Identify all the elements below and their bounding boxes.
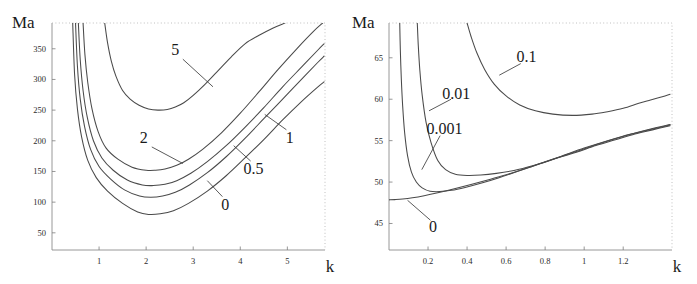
curve-label-0-5: 0.5 (243, 160, 263, 177)
curve-label-0-01: 0.01 (442, 85, 470, 102)
y-tick-label: 55 (375, 136, 384, 146)
y-tick-label: 350 (33, 44, 46, 54)
x-tick-label: 1 (97, 256, 101, 266)
y-axis-title: Ma (352, 13, 375, 32)
curve-label-0: 0 (221, 196, 229, 213)
curve-0 (73, 23, 324, 215)
y-tick-label: 45 (375, 218, 384, 228)
x-tick-label: 1.2 (618, 256, 629, 266)
curve-label-5: 5 (171, 41, 179, 58)
y-tick-label: 50 (375, 177, 384, 187)
curve-0-1 (467, 23, 670, 115)
x-tick-label: 0.4 (462, 256, 473, 266)
y-tick-label: 65 (375, 53, 384, 63)
curve-leader-line (234, 146, 251, 161)
curve-leader-line (183, 59, 213, 87)
x-axis-title: k (673, 257, 682, 276)
curve-leader-line (408, 200, 431, 220)
curve-label-0-001: 0.001 (427, 120, 463, 137)
plot-left-svg: 5010015020025030035012345Mak5210.50 (0, 0, 350, 284)
x-tick-label: 3 (191, 256, 195, 266)
x-tick-label: 2 (144, 256, 148, 266)
x-tick-label: 0.6 (501, 256, 512, 266)
plot-panel-right: 45505560650.20.40.60.811.2Mak0.10.010.00… (350, 0, 697, 284)
plot-right-svg: 45505560650.20.40.60.811.2Mak0.10.010.00… (350, 0, 697, 284)
curve-5 (105, 23, 285, 110)
curve-2 (83, 23, 323, 171)
curve-label-1: 1 (286, 129, 294, 146)
curve-label-2: 2 (140, 129, 148, 146)
figure-container: 5010015020025030035012345Mak5210.50 4550… (0, 0, 697, 284)
curve-1 (78, 23, 324, 186)
curve-leader-line (207, 181, 222, 197)
x-tick-label: 1 (582, 256, 586, 266)
y-tick-label: 300 (33, 74, 46, 84)
y-tick-label: 60 (375, 94, 384, 104)
x-tick-label: 0.8 (540, 256, 551, 266)
x-tick-label: 5 (285, 256, 289, 266)
curve-leader-line (152, 147, 183, 164)
y-axis-title: Ma (12, 13, 35, 32)
x-tick-label: 0.2 (423, 256, 434, 266)
curve-label-0: 0 (429, 218, 437, 235)
y-tick-label: 250 (33, 105, 46, 115)
curve-leader-line (499, 64, 520, 76)
y-tick-label: 100 (33, 197, 46, 207)
curve-0-5 (76, 23, 325, 197)
curves-group (73, 23, 324, 215)
y-tick-label: 50 (38, 228, 47, 238)
curve-label-0-1: 0.1 (517, 48, 537, 65)
x-tick-label: 4 (238, 256, 243, 266)
y-tick-label: 150 (33, 166, 46, 176)
plot-panel-left: 5010015020025030035012345Mak5210.50 (0, 0, 350, 284)
x-axis-title: k (326, 257, 335, 276)
y-tick-label: 200 (33, 136, 46, 146)
